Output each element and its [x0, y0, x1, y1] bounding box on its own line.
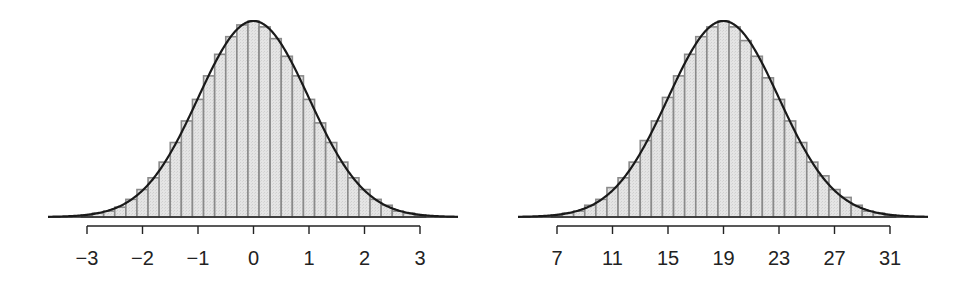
histogram-bar: [181, 121, 192, 217]
histogram-bar: [751, 56, 762, 217]
histogram-bar: [303, 99, 314, 217]
histogram-bar: [718, 21, 729, 217]
left-histogram-panel: −3−2−10123: [48, 21, 458, 269]
x-axis-tick-label: 0: [248, 247, 259, 269]
histogram-bar: [707, 27, 718, 217]
histogram-bar: [226, 37, 237, 217]
histogram-bar: [629, 162, 640, 217]
histogram-bar: [674, 76, 685, 217]
histogram-bar: [281, 56, 292, 217]
histogram-figure: −3−2−10123 7111519232731: [0, 0, 958, 289]
histogram-bar: [740, 41, 751, 217]
x-axis-tick-label: −3: [76, 247, 99, 269]
histogram-bar: [270, 39, 281, 217]
histogram-bar: [259, 27, 270, 217]
histogram-bar: [337, 162, 348, 217]
histogram-bar: [762, 78, 773, 217]
histogram-bar: [326, 143, 337, 217]
histogram-bar: [796, 143, 807, 217]
histogram-bar: [729, 27, 740, 217]
histogram-bar: [662, 97, 673, 217]
x-axis-tick-label: 11: [602, 247, 623, 269]
x-axis-tick-label: 27: [823, 247, 845, 269]
x-axis-tick-label: 19: [712, 247, 734, 269]
histogram-bar: [248, 21, 259, 217]
x-axis-tick-label: 7: [551, 247, 562, 269]
histogram-bar: [685, 54, 696, 217]
histogram-bar: [292, 76, 303, 217]
figure: −3−2−10123 7111519232731: [0, 0, 958, 289]
x-axis-tick-label: 15: [657, 247, 679, 269]
histogram-bar: [237, 25, 248, 217]
x-axis-tick-label: 1: [303, 247, 314, 269]
histogram-bar: [192, 99, 203, 217]
histogram-bar: [696, 37, 707, 217]
x-axis-tick-label: 2: [359, 247, 370, 269]
histogram-bar: [204, 76, 215, 217]
histogram-bar: [170, 143, 181, 217]
histogram-bar: [215, 54, 226, 217]
x-axis-tick-label: 23: [768, 247, 790, 269]
x-axis-tick-label: 31: [879, 247, 901, 269]
histogram-bar: [785, 121, 796, 217]
x-axis-tick-label: −1: [187, 247, 210, 269]
histogram-bar: [651, 121, 662, 217]
histogram-bar: [773, 99, 784, 217]
x-axis-tick-label: 3: [414, 247, 425, 269]
histogram-bar: [315, 123, 326, 217]
x-axis-tick-label: −2: [131, 247, 154, 269]
histogram-bar: [607, 188, 618, 217]
right-histogram-panel: 7111519232731: [518, 21, 928, 269]
histogram-bar: [159, 162, 170, 217]
histogram-bar: [807, 162, 818, 217]
